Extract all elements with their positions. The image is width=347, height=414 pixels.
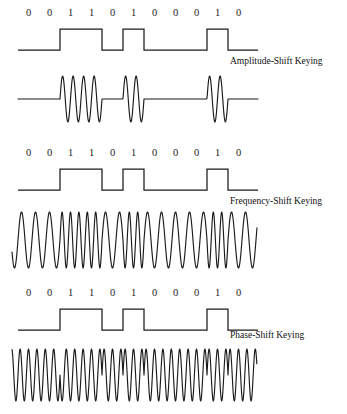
bit-label: 0 <box>43 7 57 18</box>
bit-label: 1 <box>64 147 78 158</box>
caption-fsk: Frequency-Shift Keying <box>230 196 322 206</box>
modulated-waveform-ask <box>18 70 258 128</box>
modulated-waveform-psk <box>6 344 286 406</box>
bit-label: 0 <box>169 147 183 158</box>
bit-label: 0 <box>169 287 183 298</box>
bit-label: 1 <box>211 7 225 18</box>
caption-psk: Phase-Shift Keying <box>230 330 304 340</box>
modulated-waveform-fsk <box>6 206 286 274</box>
nrz-trace <box>18 29 258 50</box>
bit-label: 1 <box>127 147 141 158</box>
section-fsk: 00110100010 Frequency-Shift Keying <box>0 140 347 278</box>
digital-waveform-psk <box>18 304 258 336</box>
bit-label: 1 <box>64 7 78 18</box>
bit-label: 0 <box>43 147 57 158</box>
caption-ask: Amplitude-Shift Keying <box>230 56 323 66</box>
bit-label: 1 <box>85 147 99 158</box>
fsk-carrier-trace <box>12 212 257 268</box>
bit-label: 0 <box>169 7 183 18</box>
digital-waveform-fsk <box>18 164 258 196</box>
bit-label: 1 <box>85 7 99 18</box>
bit-label: 1 <box>127 287 141 298</box>
bit-label: 0 <box>43 287 57 298</box>
bit-label: 0 <box>190 287 204 298</box>
section-psk: 00110100010 Phase-Shift Keying <box>0 280 347 414</box>
bit-label: 0 <box>106 287 120 298</box>
bit-label: 1 <box>127 7 141 18</box>
nrz-trace <box>18 169 258 190</box>
bit-label: 0 <box>106 147 120 158</box>
bit-label: 0 <box>190 7 204 18</box>
digital-waveform-ask <box>18 24 258 56</box>
section-ask: 00110100010 Amplitude-Shift Keying <box>0 0 347 138</box>
bit-label: 0 <box>106 7 120 18</box>
modulation-figure: 00110100010 Amplitude-Shift Keying 00110… <box>0 0 347 414</box>
psk-carrier-trace <box>12 349 257 401</box>
bit-label: 1 <box>211 147 225 158</box>
bit-label: 1 <box>211 287 225 298</box>
nrz-trace <box>18 309 258 330</box>
bit-label: 1 <box>85 287 99 298</box>
bit-label: 0 <box>190 147 204 158</box>
bit-label: 0 <box>22 287 36 298</box>
bit-label: 0 <box>232 7 246 18</box>
bit-label: 0 <box>148 287 162 298</box>
bit-label: 0 <box>232 147 246 158</box>
bit-label: 1 <box>64 287 78 298</box>
bit-label: 0 <box>22 7 36 18</box>
bit-label: 0 <box>22 147 36 158</box>
bit-label: 0 <box>148 147 162 158</box>
bit-label: 0 <box>148 7 162 18</box>
ask-carrier-trace <box>18 76 258 122</box>
bit-label: 0 <box>232 287 246 298</box>
